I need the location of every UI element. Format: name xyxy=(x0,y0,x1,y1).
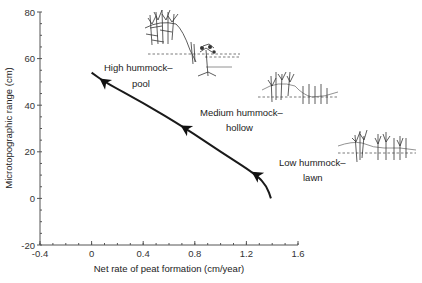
x-tick-label: 0.8 xyxy=(188,248,201,259)
x-tick-label: -0.4 xyxy=(32,248,48,259)
svg-text:hollow: hollow xyxy=(226,122,253,133)
y-tick-label: 20 xyxy=(24,146,35,157)
y-tick-label: 0 xyxy=(30,193,35,204)
svg-text:High hummock–: High hummock– xyxy=(104,62,173,73)
x-tick-label: 0.4 xyxy=(137,248,150,259)
arrowhead-icon xyxy=(178,120,194,136)
x-tick-label: 1.6 xyxy=(291,248,304,259)
svg-text:Low hummock–: Low hummock– xyxy=(279,157,346,168)
medium-hummock-hollow-illustration xyxy=(258,72,338,104)
x-axis: -0.400.40.81.21.6 xyxy=(32,241,305,259)
y-tick-label: 60 xyxy=(24,53,35,64)
chart: -20020406080 -0.400.40.81.21.6 Net rate … xyxy=(0,0,422,283)
svg-text:pool: pool xyxy=(132,78,150,89)
annotation-high-hummock-pool: High hummock– pool xyxy=(104,62,173,89)
annotation-low-hummock-lawn: Low hummock– lawn xyxy=(279,157,346,183)
y-tick-label: 40 xyxy=(24,100,35,111)
low-hummock-lawn-illustration xyxy=(338,130,416,162)
x-tick-label: 0 xyxy=(89,248,94,259)
x-tick-label: 1.2 xyxy=(240,248,253,259)
x-axis-label: Net rate of peat formation (cm/year) xyxy=(94,263,244,274)
annotation-medium-hummock-hollow: Medium hummock– hollow xyxy=(200,107,284,133)
y-axis-label: Microtopographic range (cm) xyxy=(3,67,14,188)
svg-text:lawn: lawn xyxy=(303,172,323,183)
y-axis: -20020406080 xyxy=(21,7,42,251)
y-tick-label: 80 xyxy=(24,7,35,18)
svg-text:Medium hummock–: Medium hummock– xyxy=(200,107,284,118)
arrowhead-icon xyxy=(96,74,112,90)
trajectory-curve xyxy=(92,73,271,199)
